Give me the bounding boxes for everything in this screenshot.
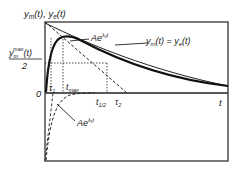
- concentration-curve: [46, 36, 228, 92]
- pharmacokinetic-diagram: ym(t), ye(t) ymmax(t) 2 0 t ym(t) = ye(t…: [0, 0, 239, 170]
- half-max-denominator: 2: [21, 61, 27, 71]
- tau2-label: τ2: [115, 97, 121, 108]
- curve-equal-label: ym(t) = ye(t): [145, 36, 191, 47]
- lower-exp-leader: [57, 104, 75, 121]
- t-axis-label: t: [219, 97, 222, 108]
- tmax-label: tmax: [66, 82, 79, 93]
- tau1-label: τ1: [49, 83, 55, 94]
- curve-label-leader: [115, 43, 148, 45]
- upper-exponential-curve: [45, 23, 228, 86]
- y-axis-label: ym(t), ye(t): [23, 8, 66, 20]
- thalf-label: t1/2: [96, 97, 106, 108]
- lower-exp-label: Aeλ₁t: [76, 117, 94, 128]
- tangent-line-tau1: [45, 93, 53, 161]
- half-max-numerator: ymmax(t): [8, 46, 32, 59]
- upper-exp-label: Aeλ₂t: [90, 32, 109, 43]
- zero-label: 0: [36, 88, 42, 99]
